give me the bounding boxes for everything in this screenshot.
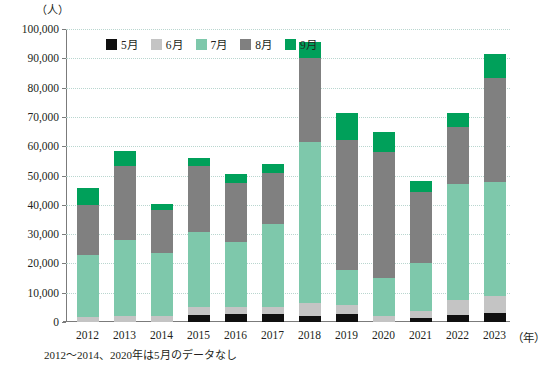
bar-group-2018 <box>299 42 321 322</box>
bar-series-container <box>66 29 510 322</box>
legend-label: 8月 <box>255 36 272 52</box>
x-axis-unit-label: （年） <box>512 329 543 345</box>
y-axis-tick-label: 90,000 <box>27 52 59 64</box>
y-axis-tick-label: 50,000 <box>27 170 59 182</box>
bar-segment <box>225 174 247 183</box>
bar-segment <box>225 314 247 322</box>
bar-segment <box>336 113 358 141</box>
y-axis-tick-label: 0 <box>53 316 59 328</box>
bar-group-2014 <box>151 204 173 322</box>
bar-segment <box>299 142 321 303</box>
bar-segment <box>299 303 321 316</box>
bar-segment <box>447 113 469 128</box>
x-axis-tick-label: 2013 <box>113 329 136 341</box>
x-axis-tick-label: 2018 <box>298 329 321 341</box>
bar-segment <box>77 188 99 204</box>
bar-segment <box>225 307 247 314</box>
y-axis-tick-label: 20,000 <box>27 257 59 269</box>
y-axis-tick-label: 100,000 <box>22 23 59 35</box>
bar-group-2012 <box>77 188 99 322</box>
legend-swatch-icon <box>106 39 117 50</box>
legend-label: 5月 <box>121 36 138 52</box>
bar-segment <box>262 173 284 224</box>
bar-segment <box>77 317 99 322</box>
bar-segment <box>114 316 136 322</box>
bar-segment <box>77 205 99 256</box>
y-axis-tick <box>62 322 66 323</box>
bar-segment <box>77 255 99 317</box>
bar-group-2013 <box>114 151 136 322</box>
bar-segment <box>410 263 432 310</box>
x-axis-tick-label: 2023 <box>483 329 506 341</box>
bar-segment <box>262 307 284 314</box>
x-axis-tick-label: 2012 <box>76 329 99 341</box>
y-axis-tick-label: 30,000 <box>27 228 59 240</box>
bar-group-2020 <box>373 132 395 322</box>
x-axis-tick-label: 2014 <box>150 329 173 341</box>
legend-swatch-icon <box>151 39 162 50</box>
x-axis-tick-label: 2022 <box>446 329 469 341</box>
bar-group-2015 <box>188 158 210 322</box>
x-axis-tick-label: 2015 <box>187 329 210 341</box>
bar-segment <box>410 311 432 319</box>
bar-segment <box>188 166 210 231</box>
bar-segment <box>447 127 469 184</box>
bar-segment <box>151 316 173 322</box>
bar-segment <box>262 314 284 322</box>
bar-segment <box>373 132 395 153</box>
bar-group-2021 <box>410 181 432 322</box>
bar-group-2023 <box>484 54 506 322</box>
legend-item: 6月 <box>151 36 183 52</box>
bar-segment <box>410 181 432 191</box>
x-axis-tick-label: 2021 <box>409 329 432 341</box>
y-axis-tick-label: 40,000 <box>27 199 59 211</box>
y-axis-tick-label: 80,000 <box>27 82 59 94</box>
bar-segment <box>410 318 432 322</box>
bar-group-2016 <box>225 174 247 322</box>
bar-segment <box>225 242 247 307</box>
y-axis-tick-label: 60,000 <box>27 140 59 152</box>
x-axis-tick-label: 2019 <box>335 329 358 341</box>
bar-segment <box>447 315 469 322</box>
bar-segment <box>151 210 173 254</box>
legend-label: 6月 <box>166 36 183 52</box>
legend-label: 9月 <box>300 36 317 52</box>
bar-segment <box>373 278 395 316</box>
legend-item: 7月 <box>196 36 228 52</box>
x-axis-tick-label: 2017 <box>261 329 284 341</box>
y-axis-tick-label: 10,000 <box>27 287 59 299</box>
bar-segment <box>410 192 432 263</box>
legend-item: 9月 <box>285 36 317 52</box>
plot-area: 010,00020,00030,00040,00050,00060,00070,… <box>66 29 510 322</box>
bar-segment <box>262 224 284 308</box>
bar-segment <box>114 151 136 166</box>
bar-segment <box>484 54 506 78</box>
chart-footnote: 2012〜2014、2020年は5月のデータなし <box>44 346 237 362</box>
bar-segment <box>484 296 506 313</box>
bar-segment <box>447 184 469 300</box>
bar-group-2022 <box>447 113 469 322</box>
legend-label: 7月 <box>211 36 228 52</box>
bar-segment <box>484 182 506 296</box>
x-axis-tick-label: 2016 <box>224 329 247 341</box>
legend-swatch-icon <box>240 39 251 50</box>
bar-segment <box>188 232 210 307</box>
x-axis-tick-label: 2020 <box>372 329 395 341</box>
bar-segment <box>336 314 358 322</box>
chart-legend: 5月6月7月8月9月 <box>106 36 317 52</box>
bar-segment <box>373 152 395 278</box>
legend-swatch-icon <box>196 39 207 50</box>
bar-group-2019 <box>336 113 358 322</box>
bar-segment <box>373 316 395 322</box>
bar-group-2017 <box>262 164 284 322</box>
bar-segment <box>336 305 358 314</box>
bar-segment <box>188 158 210 166</box>
y-axis-tick-label: 70,000 <box>27 111 59 123</box>
bar-segment <box>299 316 321 322</box>
bar-segment <box>299 58 321 142</box>
bar-segment <box>336 270 358 305</box>
bar-segment <box>114 166 136 240</box>
bar-segment <box>447 300 469 315</box>
bar-segment <box>262 164 284 173</box>
